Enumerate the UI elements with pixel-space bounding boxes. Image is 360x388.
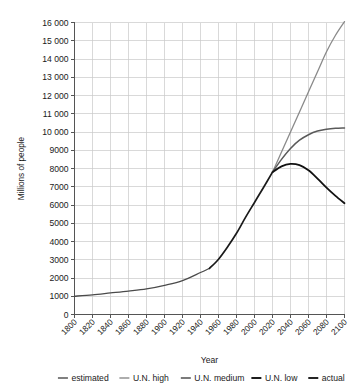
x-tick-label: 1960 (203, 317, 223, 337)
chart-canvas: 010002000300040005000600070008000900010 … (0, 0, 360, 388)
y-tick-labels: 010002000300040005000600070008000900010 … (42, 18, 69, 320)
x-tick-label: 2060 (293, 317, 313, 337)
legend-label-u-n-low: U.N. low (265, 373, 298, 383)
x-tick-label: 2020 (257, 317, 277, 337)
y-tick-label: 8000 (49, 164, 68, 174)
x-tick-label: 1900 (149, 317, 169, 337)
y-tick-label: 2000 (49, 273, 68, 283)
y-tick-label: 5000 (49, 218, 68, 228)
x-tick-label: 2100 (329, 317, 349, 337)
y-tick-label: 0 (64, 310, 69, 320)
x-tick-label: 2040 (275, 317, 295, 337)
legend-label-estimated: estimated (71, 373, 108, 383)
y-tick-label: 7000 (49, 182, 68, 192)
x-tick-label: 2080 (311, 317, 331, 337)
x-tick-label: 2000 (239, 317, 259, 337)
y-tick-label: 11 000 (43, 109, 69, 119)
population-projection-chart: 010002000300040005000600070008000900010 … (0, 0, 360, 388)
y-tick-label: 9000 (49, 145, 68, 155)
y-tick-label: 3000 (49, 255, 68, 265)
x-axis-title: Year (201, 355, 219, 365)
x-tick-label: 1820 (77, 317, 97, 337)
legend-label-u-n-medium: U.N. medium (194, 373, 244, 383)
y-tick-label: 1000 (49, 291, 68, 301)
y-tick-label: 13 000 (42, 72, 69, 82)
y-tick-label: 14 000 (42, 54, 69, 64)
y-tick-label: 10 000 (42, 127, 69, 137)
x-tick-label: 1840 (95, 317, 115, 337)
x-tick-label: 1940 (185, 317, 205, 337)
chart-legend: estimatedU.N. highU.N. mediumU.N. lowact… (58, 373, 345, 383)
y-axis-label-text: Millions of people (17, 136, 26, 200)
x-axis-label-text: Year (201, 355, 219, 365)
y-axis-title: Millions of people (17, 136, 26, 200)
x-tick-label: 1920 (167, 317, 187, 337)
x-tick-label: 1880 (131, 317, 151, 337)
legend-label-u-n-high: U.N. high (133, 373, 169, 383)
grid-lines (75, 23, 345, 315)
x-tick-label: 1800 (59, 317, 79, 337)
y-tick-label: 12 000 (42, 91, 69, 101)
x-tick-label: 1980 (221, 317, 241, 337)
data-series (75, 22, 345, 297)
y-tick-label: 6000 (49, 200, 68, 210)
y-tick-label: 16 000 (42, 18, 69, 28)
x-tick-label: 1860 (113, 317, 133, 337)
legend-label-actual: actual (322, 373, 345, 383)
y-tick-label: 4000 (49, 237, 68, 247)
tick-marks (71, 23, 345, 319)
x-tick-labels: 1800182018401860188019001920194019601980… (59, 317, 349, 337)
y-tick-label: 15 000 (42, 36, 69, 46)
series-line-estimated (75, 268, 210, 296)
